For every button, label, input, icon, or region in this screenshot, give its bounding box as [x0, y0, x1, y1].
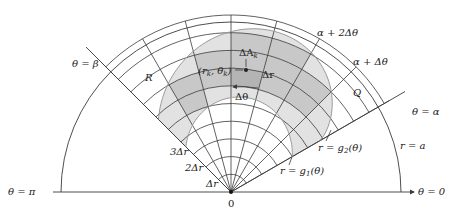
label-r-equals-a: r = a — [400, 140, 426, 151]
label-region-r: R — [144, 72, 153, 83]
label-theta-pi: θ = π — [8, 186, 36, 197]
label-three-delta-r: 3Δr — [170, 146, 190, 157]
label-theta-alpha: θ = α — [412, 106, 440, 117]
label-g2: r = g2(θ) — [318, 142, 362, 155]
grid-ring — [193, 139, 277, 166]
label-delta-r-cell: Δr — [262, 69, 274, 80]
g2-leader — [326, 130, 331, 141]
label-alpha-plus-dtheta: α + Δθ — [353, 56, 388, 67]
polar-region-diagram: θ = β θ = α θ = π θ = 0 0 r = a α + 2Δθ … — [0, 0, 464, 213]
label-one-delta-r: Δr — [205, 178, 219, 189]
inner-grid-cells — [169, 33, 331, 117]
origin-point — [229, 190, 233, 194]
label-origin: 0 — [228, 198, 234, 209]
label-theta-zero: θ = 0 — [418, 186, 446, 197]
label-delta-theta-cell: Δθ — [235, 91, 248, 102]
grid-ring — [206, 157, 262, 175]
label-cell-q: Q — [353, 87, 361, 98]
label-two-delta-r: 2Δr — [184, 162, 205, 173]
label-g1: r = g1(θ) — [280, 165, 324, 178]
label-alpha-plus-2dtheta: α + 2Δθ — [317, 27, 358, 38]
label-theta-beta: θ = β — [72, 58, 99, 69]
diagram-canvas: θ = β θ = α θ = π θ = 0 0 r = a α + 2Δθ … — [0, 0, 464, 213]
grid-ring — [218, 174, 246, 183]
sample-point — [244, 68, 248, 72]
